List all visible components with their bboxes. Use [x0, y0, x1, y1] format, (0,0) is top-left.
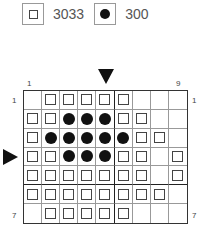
- square-symbol-icon: [118, 189, 129, 200]
- grid-cell: [133, 129, 151, 148]
- grid-cell: [78, 166, 96, 185]
- grid-cell: [169, 185, 187, 204]
- dot-symbol-icon: [100, 9, 110, 19]
- grid-cell: [24, 129, 42, 148]
- square-symbol-icon: [118, 208, 129, 219]
- grid-cell: [60, 185, 78, 204]
- legend-swatch-dot: [94, 3, 116, 25]
- grid-cell: [42, 166, 60, 185]
- grid-cell: [133, 148, 151, 167]
- square-symbol-icon: [63, 94, 74, 105]
- grid-cell: [151, 110, 169, 129]
- grid-cell: [60, 91, 78, 110]
- square-symbol-icon: [29, 10, 38, 19]
- square-symbol-icon: [118, 113, 129, 124]
- dot-symbol-icon: [99, 113, 111, 125]
- dot-symbol-icon: [81, 150, 93, 162]
- grid-cell: [115, 185, 133, 204]
- dot-symbol-icon: [81, 113, 93, 125]
- square-symbol-icon: [27, 151, 38, 162]
- square-symbol-icon: [45, 94, 56, 105]
- grid-cell: [115, 166, 133, 185]
- dot-symbol-icon: [63, 113, 75, 125]
- square-symbol-icon: [81, 170, 92, 181]
- square-symbol-icon: [136, 113, 147, 124]
- grid-cell: [24, 204, 42, 223]
- grid-cell: [60, 110, 78, 129]
- square-symbol-icon: [63, 189, 74, 200]
- dot-symbol-icon: [117, 132, 129, 144]
- grid-cell: [60, 148, 78, 167]
- square-symbol-icon: [63, 170, 74, 181]
- grid-cell: [78, 110, 96, 129]
- legend-item-dot: 300: [94, 3, 148, 25]
- square-symbol-icon: [45, 208, 56, 219]
- grid-cell: [96, 110, 114, 129]
- column-label-first: 1: [27, 79, 31, 88]
- grid-cell: [169, 129, 187, 148]
- square-symbol-icon: [99, 208, 110, 219]
- row-label-first-left: 1: [12, 96, 16, 105]
- grid-cell: [78, 129, 96, 148]
- grid-cell: [24, 91, 42, 110]
- square-symbol-icon: [81, 189, 92, 200]
- center-column-arrow-icon: [98, 69, 114, 84]
- grid-cell: [96, 129, 114, 148]
- grid-cell: [133, 185, 151, 204]
- legend-item-square: 3033: [22, 3, 84, 25]
- column-label-last: 9: [176, 79, 180, 88]
- square-symbol-icon: [45, 170, 56, 181]
- square-symbol-icon: [27, 170, 38, 181]
- grid-cell: [169, 204, 187, 223]
- square-symbol-icon: [45, 113, 56, 124]
- grid-cell: [115, 148, 133, 167]
- dot-symbol-icon: [99, 150, 111, 162]
- grid-cell: [24, 185, 42, 204]
- grid-cell: [96, 148, 114, 167]
- square-symbol-icon: [154, 132, 165, 143]
- row-label-last-right: 7: [192, 211, 196, 220]
- grid-cell: [96, 185, 114, 204]
- grid-cell: [115, 91, 133, 110]
- square-symbol-icon: [118, 170, 129, 181]
- grid-cell: [24, 148, 42, 167]
- grid-cell: [96, 166, 114, 185]
- legend: 3033 300: [22, 3, 159, 25]
- grid-cell: [133, 91, 151, 110]
- grid-cell: [78, 185, 96, 204]
- grid-cell: [96, 91, 114, 110]
- grid-cell: [151, 148, 169, 167]
- grid-cell: [24, 166, 42, 185]
- grid-cell: [60, 129, 78, 148]
- square-symbol-icon: [45, 189, 56, 200]
- row-label-first-right: 1: [192, 96, 196, 105]
- dot-symbol-icon: [63, 132, 75, 144]
- grid-cell: [60, 204, 78, 223]
- grid-cell: [42, 110, 60, 129]
- square-symbol-icon: [154, 189, 165, 200]
- square-symbol-icon: [81, 94, 92, 105]
- grid-cell: [78, 91, 96, 110]
- square-symbol-icon: [27, 189, 38, 200]
- square-symbol-icon: [136, 151, 147, 162]
- grid-cell: [133, 166, 151, 185]
- square-symbol-icon: [81, 208, 92, 219]
- square-symbol-icon: [99, 170, 110, 181]
- grid-cell: [151, 166, 169, 185]
- grid-cell: [42, 91, 60, 110]
- square-symbol-icon: [99, 189, 110, 200]
- square-symbol-icon: [136, 170, 147, 181]
- grid-cell: [151, 129, 169, 148]
- dot-symbol-icon: [81, 132, 93, 144]
- square-symbol-icon: [136, 189, 147, 200]
- square-symbol-icon: [27, 132, 38, 143]
- grid-cell: [133, 204, 151, 223]
- grid-cell: [115, 110, 133, 129]
- square-symbol-icon: [63, 208, 74, 219]
- grid-cell: [60, 166, 78, 185]
- legend-swatch-square: [22, 3, 44, 25]
- grid-cell: [115, 204, 133, 223]
- grid-cell: [42, 204, 60, 223]
- grid-cell: [169, 148, 187, 167]
- grid-cell: [42, 148, 60, 167]
